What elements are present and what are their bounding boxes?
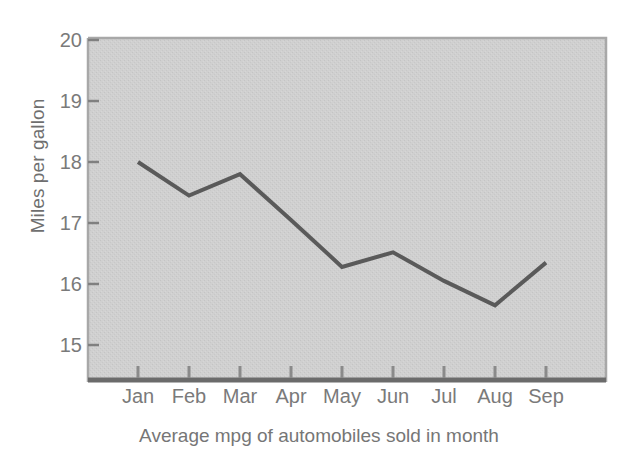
x-tick-label-sep: Sep <box>511 386 581 406</box>
plot-background <box>88 38 606 382</box>
y-tick-label: 20 <box>36 30 82 50</box>
y-tick-label: 16 <box>36 274 82 294</box>
y-tick-label: 18 <box>36 152 82 172</box>
chart-figure: Miles per gallon 20 19 18 17 16 15 Jan F… <box>0 0 638 463</box>
x-axis-tick-labels: Jan Feb Mar Apr May Jun Jul Aug Sep <box>0 386 638 416</box>
y-tick-label: 17 <box>36 213 82 233</box>
y-tick-label: 15 <box>36 335 82 355</box>
y-tick-label: 19 <box>36 91 82 111</box>
x-axis-title: Average mpg of automobiles sold in month <box>0 425 638 447</box>
